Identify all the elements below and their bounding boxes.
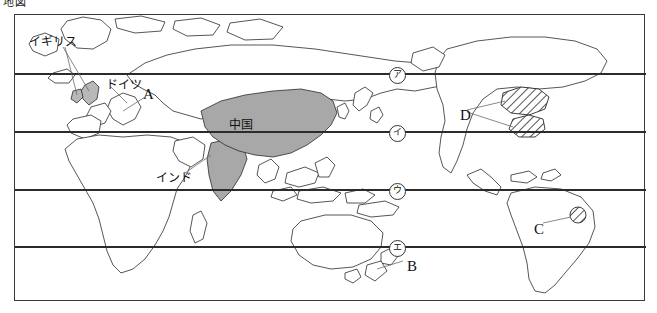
label-germany: ドイツ (106, 79, 142, 91)
worksheet-page: 地図 (0, 0, 657, 313)
marker-letter-a: A (143, 87, 154, 102)
world-map-frame: イギリス ドイツ 中国 インド A B C D ア イ ウ エ (14, 14, 645, 301)
latitude-marker-e: エ (389, 240, 406, 257)
hatched-region-d (501, 87, 549, 137)
sheet-title: 地図 (3, 0, 27, 9)
world-map-graphic (15, 15, 646, 302)
latitude-marker-u: ウ (389, 183, 406, 200)
label-uk: イギリス (29, 36, 77, 48)
label-china: 中国 (229, 119, 253, 131)
landmass-outlines (29, 16, 607, 293)
marker-letter-b: B (407, 259, 417, 274)
hatched-region-c (570, 207, 586, 223)
marker-letter-d: D (460, 108, 471, 123)
marker-letter-c: C (534, 222, 544, 237)
label-india: インド (156, 172, 192, 184)
latitude-marker-i: イ (389, 125, 406, 142)
latitude-marker-a: ア (389, 67, 406, 84)
